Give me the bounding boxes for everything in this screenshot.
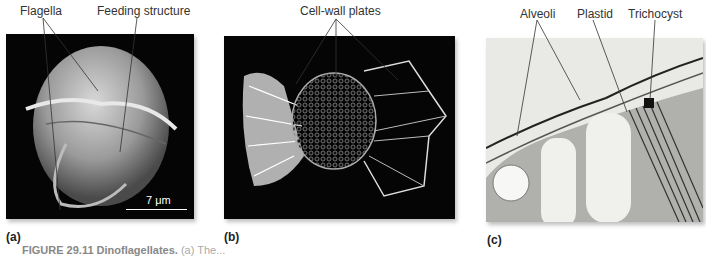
panel-a-sem-image: 7 μm bbox=[6, 34, 194, 219]
panel-b-label: (b) bbox=[224, 230, 239, 244]
scale-bar-label: 7 μm bbox=[146, 194, 171, 206]
callout-flagella: Flagella bbox=[20, 4, 62, 18]
panel-a-label: (a) bbox=[6, 230, 21, 244]
callout-feeding-structure: Feeding structure bbox=[97, 4, 190, 18]
panel-c-tem-image bbox=[486, 38, 703, 222]
scale-bar-line bbox=[126, 209, 187, 210]
callout-cell-wall-plates: Cell-wall plates bbox=[300, 4, 381, 18]
caption-title: FIGURE 29.11 Dinoflagellates. bbox=[22, 244, 178, 256]
callout-trichocyst: Trichocyst bbox=[628, 7, 682, 21]
figure-caption: FIGURE 29.11 Dinoflagellates. (a) The... bbox=[22, 244, 225, 256]
caption-text: (a) The... bbox=[181, 244, 225, 256]
tem-cross-section-graphic bbox=[486, 38, 703, 222]
armored-dinoflagellate-graphic bbox=[224, 36, 455, 219]
callout-plastid: Plastid bbox=[577, 7, 613, 21]
dinoflagellate-sem-graphic bbox=[6, 34, 194, 219]
panel-c-label: (c) bbox=[487, 233, 502, 247]
callout-alveoli: Alveoli bbox=[520, 7, 555, 21]
panel-b-sem-image bbox=[224, 36, 455, 219]
